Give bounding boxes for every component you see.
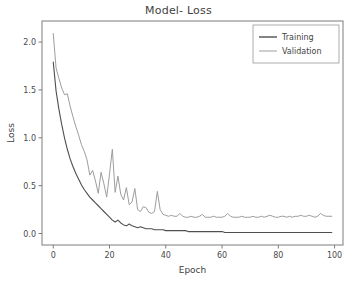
y-tick-label: 0.5 bbox=[23, 182, 36, 191]
line-chart-canvas: 0204060801000.00.51.01.52.0 EpochLoss Tr… bbox=[0, 0, 357, 295]
chart-figure: Model- Loss 0204060801000.00.51.01.52.0 … bbox=[0, 0, 357, 295]
y-tick-label: 1.5 bbox=[23, 86, 36, 95]
y-tick-label: 2.0 bbox=[23, 38, 36, 47]
x-tick-label: 80 bbox=[273, 251, 283, 260]
x-axis-title: Epoch bbox=[179, 265, 207, 275]
series-line-training bbox=[53, 62, 332, 232]
y-axis-title: Loss bbox=[6, 123, 16, 143]
y-tick-label: 0.0 bbox=[23, 230, 36, 239]
x-tick-label: 100 bbox=[327, 251, 342, 260]
axis-ticks-group: 0204060801000.00.51.01.52.0 bbox=[23, 38, 342, 260]
legend-frame bbox=[253, 25, 339, 63]
x-tick-label: 60 bbox=[217, 251, 227, 260]
x-tick-label: 20 bbox=[104, 251, 114, 260]
x-tick-label: 0 bbox=[51, 251, 56, 260]
y-tick-label: 1.0 bbox=[23, 134, 36, 143]
legend-label-training: Training bbox=[281, 33, 314, 42]
x-tick-label: 40 bbox=[161, 251, 171, 260]
legend-label-validation: Validation bbox=[282, 47, 322, 56]
chart-legend: TrainingValidation bbox=[253, 25, 339, 63]
